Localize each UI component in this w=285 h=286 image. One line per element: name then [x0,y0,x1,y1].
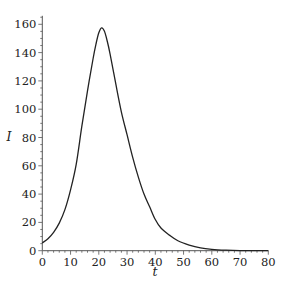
data-line-I [42,28,268,251]
chart: 020406080100120140160 01020304050607080 … [0,0,285,286]
x-tick-label: 60 [204,255,219,269]
y-tick-label: 100 [14,102,36,116]
x-tick-label: 20 [91,255,106,269]
x-tick-label: 50 [176,255,191,269]
x-tick-label: 80 [261,255,276,269]
x-tick-label: 0 [39,255,46,269]
y-tick-label: 60 [22,159,37,173]
y-tick-label: 40 [22,187,37,201]
y-tick-label: 0 [29,244,36,258]
y-tick-label: 140 [14,46,36,60]
y-axis: 020406080100120140160 [14,16,42,258]
y-axis-label: I [6,129,13,144]
y-tick-label: 160 [14,17,36,31]
x-tick-label: 70 [233,255,248,269]
x-tick-label: 10 [63,255,78,269]
y-tick-label: 20 [22,215,37,229]
y-tick-label: 120 [14,74,36,88]
x-tick-label: 30 [120,255,135,269]
y-tick-label: 80 [22,131,37,145]
